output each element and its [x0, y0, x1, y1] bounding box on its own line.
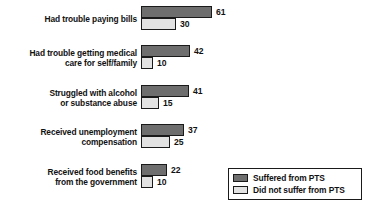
bar-not-suffered [141, 57, 153, 69]
bar-value: 41 [193, 86, 203, 96]
category-label-line1: Received unemployment [40, 127, 137, 137]
category-label-line2: compensation [0, 137, 137, 147]
category-label-line2: or substance abuse [0, 98, 137, 108]
chart-group: Had trouble paying bills 61 30 [0, 6, 366, 36]
bar-value: 25 [174, 137, 184, 147]
legend-swatch-icon [233, 186, 248, 194]
category-label: Received food benefits from the governme… [0, 167, 137, 187]
bar-value: 10 [157, 58, 167, 68]
category-label-line2: care for self/family [0, 58, 137, 68]
category-label: Had trouble getting medical care for sel… [0, 48, 137, 68]
category-label-line1: Received food benefits [48, 167, 137, 177]
bar-suffered [141, 85, 189, 97]
category-label: Had trouble paying bills [0, 14, 137, 24]
grouped-bar-chart: Had trouble paying bills 61 30 Had troub… [0, 0, 366, 220]
legend-label: Suffered from PTS [253, 173, 325, 183]
bar-suffered [141, 124, 184, 136]
legend-item-not-suffered: Did not suffer from PTS [233, 184, 356, 195]
category-label-line1: Struggled with alcohol [49, 88, 137, 98]
bar-value: 22 [171, 165, 181, 175]
bar-value: 30 [180, 19, 190, 29]
chart-group: Received unemployment compensation 37 25 [0, 124, 366, 154]
bar-suffered [141, 45, 190, 57]
bar-not-suffered [141, 97, 159, 109]
legend-item-suffered: Suffered from PTS [233, 173, 356, 184]
bar-value: 42 [194, 46, 204, 56]
chart-legend: Suffered from PTS Did not suffer from PT… [228, 168, 362, 200]
category-label-line2: from the government [0, 177, 137, 187]
bar-suffered [141, 164, 167, 176]
bar-suffered [141, 6, 212, 18]
legend-label: Did not suffer from PTS [253, 185, 345, 195]
bar-value: 61 [216, 7, 226, 17]
bar-value: 10 [157, 177, 167, 187]
legend-swatch-icon [233, 174, 248, 182]
bar-value: 37 [188, 125, 198, 135]
category-label-line1: Had trouble getting medical [29, 48, 137, 58]
bar-not-suffered [141, 18, 176, 30]
bar-not-suffered [141, 136, 170, 148]
bar-value: 15 [163, 98, 173, 108]
category-label: Received unemployment compensation [0, 127, 137, 147]
category-label: Struggled with alcohol or substance abus… [0, 88, 137, 108]
category-label-line1: Had trouble paying bills [44, 14, 137, 24]
bar-not-suffered [141, 176, 153, 188]
chart-group: Struggled with alcohol or substance abus… [0, 85, 366, 115]
chart-group: Had trouble getting medical care for sel… [0, 45, 366, 75]
